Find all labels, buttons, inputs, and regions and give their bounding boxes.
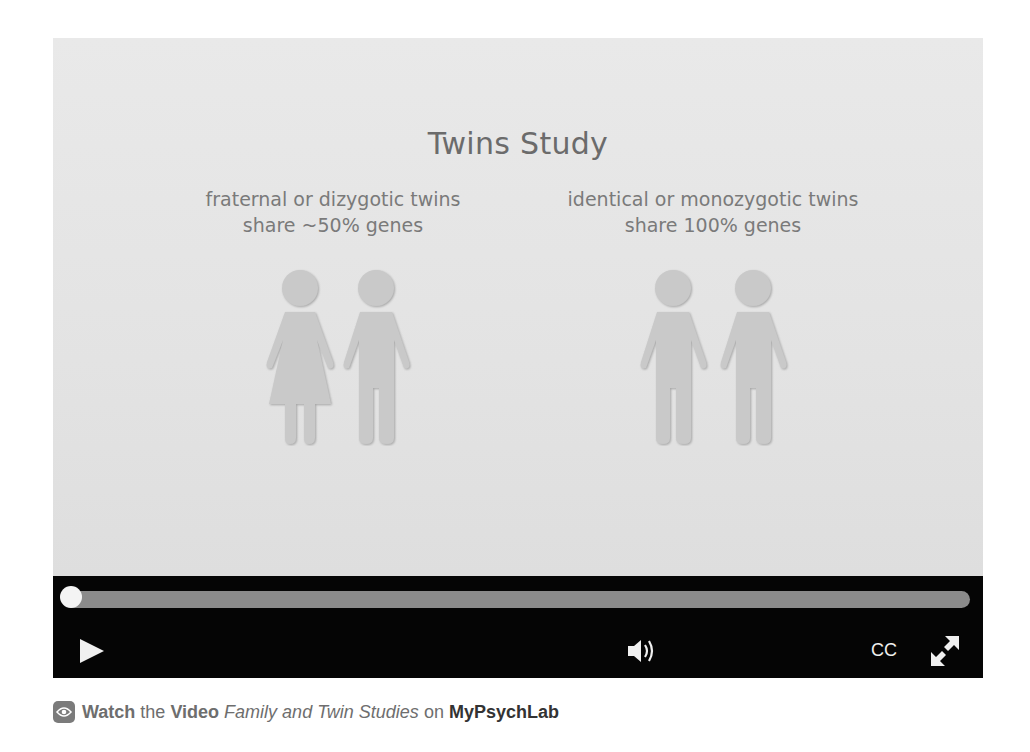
video-frame[interactable]: Twins Study fraternal or dizygotic twins… xyxy=(53,38,983,576)
watch-label: Watch xyxy=(82,702,135,723)
male-figure-icon xyxy=(721,270,787,444)
brand-name: MyPsychLab xyxy=(449,702,559,723)
male-figure-icon xyxy=(344,270,410,444)
slide-title: Twins Study xyxy=(53,126,983,161)
fraternal-caption: fraternal or dizygotic twins share ~50% … xyxy=(183,186,483,238)
identical-twins-figures xyxy=(633,266,803,446)
video-player[interactable]: Twins Study fraternal or dizygotic twins… xyxy=(53,38,983,678)
progress-bar[interactable] xyxy=(63,591,970,608)
identical-caption-line1: identical or monozygotic twins xyxy=(548,186,878,212)
male-figure-icon xyxy=(641,270,707,444)
the-label: the xyxy=(140,702,165,723)
eye-icon xyxy=(53,701,75,723)
volume-button[interactable] xyxy=(626,636,656,666)
watch-video-link[interactable]: Watch the Video Family and Twin Studies … xyxy=(53,700,559,724)
fraternal-caption-line1: fraternal or dizygotic twins xyxy=(183,186,483,212)
fullscreen-button[interactable] xyxy=(929,634,961,668)
fraternal-twins-figures xyxy=(263,266,423,446)
play-button[interactable] xyxy=(80,639,104,663)
video-label: Video xyxy=(170,702,219,723)
fraternal-caption-line2: share ~50% genes xyxy=(183,212,483,238)
video-title: Family and Twin Studies xyxy=(224,702,419,723)
progress-handle[interactable] xyxy=(60,586,82,608)
identical-caption-line2: share 100% genes xyxy=(548,212,878,238)
fullscreen-icon xyxy=(931,636,959,666)
identical-caption: identical or monozygotic twins share 100… xyxy=(548,186,878,238)
female-figure-icon xyxy=(267,270,334,444)
closed-captions-button[interactable]: CC xyxy=(871,640,897,661)
on-label: on xyxy=(424,702,444,723)
player-controls: CC xyxy=(53,576,983,678)
volume-icon xyxy=(628,640,652,662)
